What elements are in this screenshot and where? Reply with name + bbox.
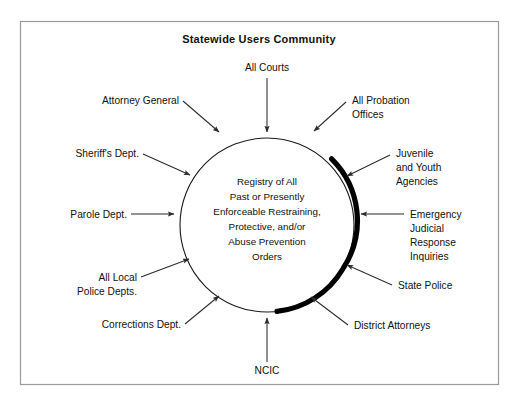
spoke-juvenile-and-youth-agencies	[347, 155, 390, 176]
hub-line-6: Orders	[252, 251, 282, 262]
label-juvenile-line2: and Youth	[396, 162, 441, 173]
statewide-users-community-diagram: Statewide Users Community Registry of Al…	[0, 0, 519, 402]
label-parole-dept: Parole Dept.	[70, 209, 127, 220]
spoke-corrections-dept	[185, 296, 219, 324]
label-emergency-line4: Inquiries	[410, 251, 449, 262]
label-juvenile-line1: Juvenile	[396, 148, 434, 159]
label-corrections-dept: Corrections Dept.	[102, 319, 181, 330]
spoke-state-police	[347, 265, 392, 285]
spoke-attorney-general	[183, 101, 219, 132]
spoke-all-local-police-depts	[141, 259, 189, 277]
label-emergency-line1: Emergency	[410, 209, 462, 220]
label-attorney-general: Attorney General	[102, 95, 179, 106]
label-juvenile-line3: Agencies	[396, 176, 438, 187]
label-sheriffs-dept: Sheriff's Dept.	[76, 148, 139, 159]
diagram-canvas: Statewide Users Community Registry of Al…	[0, 0, 519, 402]
spoke-all-probation-offices	[314, 102, 346, 131]
hub-line-3: Enforceable Restraining,	[213, 206, 320, 217]
label-all-local-police-line1: All Local	[98, 272, 137, 283]
label-state-police: State Police	[398, 280, 453, 291]
label-emergency-line2: Judicial	[410, 223, 444, 234]
hub-line-5: Abuse Prevention	[228, 236, 305, 247]
label-all-probation-offices-line1: All Probation	[352, 95, 410, 106]
diagram-title: Statewide Users Community	[182, 33, 336, 45]
hub-line-4: Protective, and/or	[229, 221, 307, 232]
label-all-courts: All Courts	[245, 62, 289, 73]
hub-line-1: Registry of All	[237, 176, 297, 187]
label-district-attorneys: District Attorneys	[354, 320, 430, 331]
label-all-local-police-line2: Police Depts.	[77, 286, 137, 297]
label-ncic: NCIC	[255, 365, 280, 376]
label-all-probation-offices-line2: Offices	[352, 109, 384, 120]
spoke-district-attorneys	[311, 297, 348, 325]
spoke-sheriffs-dept	[143, 154, 190, 175]
label-emergency-line3: Response	[410, 237, 456, 248]
hub-line-2: Past or Presently	[230, 191, 305, 202]
